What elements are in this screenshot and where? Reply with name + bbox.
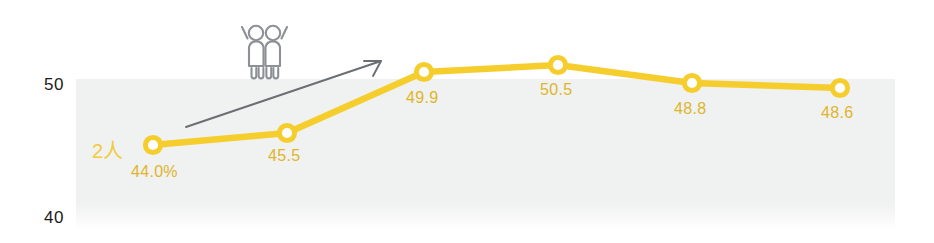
series-label-2people: 2人 (92, 135, 123, 164)
data-point-marker[interactable] (684, 75, 699, 90)
data-point-marker[interactable] (550, 57, 565, 72)
data-point-marker[interactable] (416, 64, 431, 79)
data-point-marker[interactable] (832, 80, 847, 95)
data-label-4: 48.8 (674, 100, 706, 118)
data-label-1: 45.5 (268, 147, 300, 165)
data-point-marker[interactable] (145, 137, 160, 152)
line-series-2people (0, 0, 934, 243)
data-label-3: 50.5 (540, 81, 572, 99)
data-point-marker[interactable] (279, 125, 294, 140)
data-label-5: 48.6 (821, 104, 853, 122)
data-label-0: 44.0% (131, 163, 178, 181)
series-line (153, 65, 840, 145)
data-label-2: 49.9 (406, 89, 438, 107)
chart-page: 50 40 (0, 0, 934, 243)
